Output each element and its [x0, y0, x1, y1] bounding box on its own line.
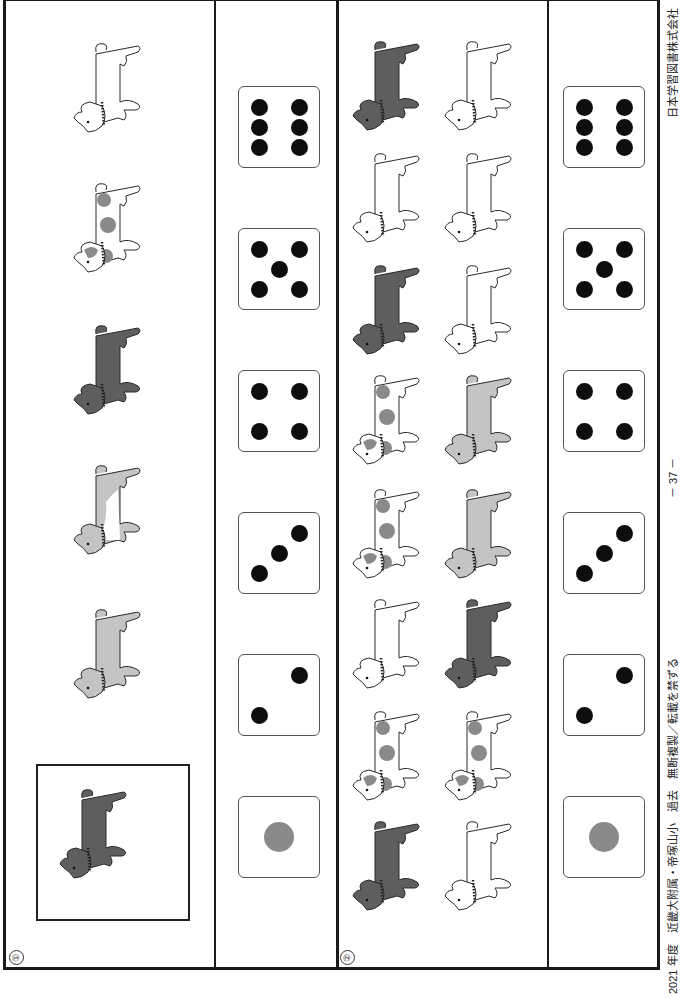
die-pip [576, 99, 593, 116]
die-face-4[interactable] [238, 370, 320, 452]
die-face-4[interactable] [563, 370, 645, 452]
die-pip [291, 99, 308, 116]
animal-spotted-dog [439, 708, 519, 808]
animal-light-gray-dog [68, 606, 148, 706]
die-pip [271, 545, 288, 562]
die-pip [576, 383, 593, 400]
section2-animals [339, 0, 547, 968]
die-pip [576, 281, 593, 298]
animal-black-dog [347, 38, 427, 138]
animal-white-dog [439, 262, 519, 362]
die-pip [616, 525, 633, 542]
animal-light-gray-dog [439, 486, 519, 586]
animal-white-dog [439, 818, 519, 918]
die-pip [616, 667, 633, 684]
section1-target-box [36, 764, 190, 921]
die-pip [576, 119, 593, 136]
section2-dice-column [549, 0, 660, 968]
die-face-1[interactable] [563, 796, 645, 878]
die-pip [291, 383, 308, 400]
animal-white-dog [439, 150, 519, 250]
animal-light-gray-dog [439, 372, 519, 472]
animal-black-dog [68, 322, 148, 422]
die-pip [616, 281, 633, 298]
die-pip [251, 119, 268, 136]
die-pip [291, 119, 308, 136]
die-pip [251, 565, 268, 582]
die-pip [291, 667, 308, 684]
die-face-1[interactable] [238, 796, 320, 878]
footer-source: 2021 年度 近畿大附属・帝塚山小 過去 無断複製／転載を禁ずる [664, 658, 680, 994]
die-pip [251, 423, 268, 440]
animal-spotted-dog [347, 372, 427, 472]
die-pip [251, 99, 268, 116]
die-pip [616, 99, 633, 116]
animal-spotted-dog [347, 708, 427, 808]
die-face-6[interactable] [563, 86, 645, 168]
die-face-3[interactable] [563, 512, 645, 594]
die-face-2[interactable] [238, 654, 320, 736]
animal-white-dog [347, 596, 427, 696]
animal-black-dog [347, 262, 427, 362]
die-pip [251, 241, 268, 258]
die-pip [576, 565, 593, 582]
die-pip [264, 822, 294, 852]
animal-white-dog [439, 38, 519, 138]
animal-tan-white-dog [68, 462, 148, 562]
die-face-2[interactable] [563, 654, 645, 736]
die-pip [576, 139, 593, 156]
animal-black-dog [439, 596, 519, 696]
die-face-5[interactable] [563, 228, 645, 310]
section1-number: ① [9, 950, 24, 965]
section2-number: ② [340, 950, 355, 965]
die-pip [596, 545, 613, 562]
footer-publisher: 日本学習図書株式会社 [664, 8, 680, 118]
die-pip [589, 822, 619, 852]
die-pip [576, 241, 593, 258]
die-pip [291, 423, 308, 440]
die-pip [596, 261, 613, 278]
animal-white-dog [347, 150, 427, 250]
footer-page-number: － 37 － [664, 458, 680, 498]
die-face-6[interactable] [238, 86, 320, 168]
die-pip [291, 139, 308, 156]
animal-white-dog [68, 40, 148, 140]
animal-spotted-dog [68, 180, 148, 280]
die-pip [576, 707, 593, 724]
die-pip [616, 119, 633, 136]
animal-black-dog [347, 818, 427, 918]
animal-spotted-dog [347, 486, 427, 586]
die-pip [291, 525, 308, 542]
die-pip [291, 241, 308, 258]
die-pip [251, 707, 268, 724]
die-pip [271, 261, 288, 278]
die-pip [616, 423, 633, 440]
die-pip [251, 139, 268, 156]
die-pip [251, 383, 268, 400]
die-pip [576, 423, 593, 440]
die-pip [251, 281, 268, 298]
die-pip [291, 281, 308, 298]
die-face-3[interactable] [238, 512, 320, 594]
section1-dice-column [216, 0, 336, 968]
die-pip [616, 383, 633, 400]
die-pip [616, 241, 633, 258]
die-pip [616, 139, 633, 156]
die-face-5[interactable] [238, 228, 320, 310]
